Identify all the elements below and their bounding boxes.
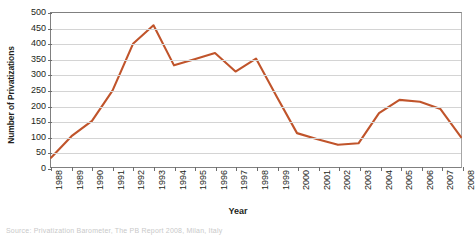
y-tick-mark (48, 75, 52, 76)
y-tick-label: 250 (31, 85, 46, 95)
x-tick-label: 1998 (260, 170, 270, 190)
x-tick-label: 2007 (445, 170, 455, 190)
x-axis-title: Year (0, 206, 468, 216)
y-tick-label: 500 (31, 7, 46, 17)
y-tick-mark (48, 60, 52, 61)
y-tick-mark (48, 107, 52, 108)
x-tick-label: 1991 (116, 170, 126, 190)
gridline (51, 91, 461, 92)
x-tick-label: 2008 (466, 170, 476, 190)
x-tick-label: 1989 (75, 170, 85, 190)
x-tick-label: 2002 (342, 170, 352, 190)
x-tick-mark (463, 167, 464, 171)
x-tick-label: 1994 (178, 170, 188, 190)
y-tick-mark (48, 44, 52, 45)
y-tick-label: 100 (31, 132, 46, 142)
x-tick-label: 2001 (322, 170, 332, 190)
gridline (51, 107, 461, 108)
gridline (51, 75, 461, 76)
gridline (51, 29, 461, 30)
x-tick-label: 1995 (198, 170, 208, 190)
x-tick-label: 1992 (136, 170, 146, 190)
gridline (51, 153, 461, 154)
y-tick-label: 300 (31, 69, 46, 79)
y-tick-label: 0 (41, 163, 46, 173)
chart-svg (51, 13, 461, 167)
y-tick-label: 350 (31, 54, 46, 64)
x-tick-label: 1993 (157, 170, 167, 190)
x-tick-label: 1990 (95, 170, 105, 190)
source-note: Source: Privatization Barometer, The PB … (6, 227, 446, 235)
plot-area (50, 12, 462, 168)
x-axis-tick-labels: 1988198919901991199219931994199519961997… (50, 170, 462, 206)
y-tick-label: 200 (31, 101, 46, 111)
y-tick-mark (48, 29, 52, 30)
y-tick-mark (48, 138, 52, 139)
gridline (51, 122, 461, 123)
y-tick-label: 450 (31, 23, 46, 33)
x-axis-title-text: Year (220, 206, 247, 216)
x-tick-label: 1999 (281, 170, 291, 190)
y-tick-mark (48, 153, 52, 154)
y-tick-mark (48, 91, 52, 92)
y-axis-title-text: Number of Privatizations (6, 46, 16, 144)
x-tick-label: 2000 (301, 170, 311, 190)
y-tick-label: 50 (36, 147, 46, 157)
x-tick-label: 2003 (363, 170, 373, 190)
y-tick-label: 400 (31, 38, 46, 48)
y-tick-label: 150 (31, 116, 46, 126)
x-tick-label: 1996 (219, 170, 229, 190)
y-tick-mark (48, 13, 52, 14)
x-tick-label: 1988 (54, 170, 64, 190)
y-axis-tick-labels: 050100150200250300350400450500 (18, 12, 48, 168)
x-tick-label: 2006 (425, 170, 435, 190)
gridline (51, 60, 461, 61)
x-tick-label: 1997 (239, 170, 249, 190)
x-tick-label: 2005 (404, 170, 414, 190)
x-tick-label: 2004 (384, 170, 394, 190)
y-tick-mark (48, 122, 52, 123)
gridline (51, 44, 461, 45)
gridline (51, 138, 461, 139)
